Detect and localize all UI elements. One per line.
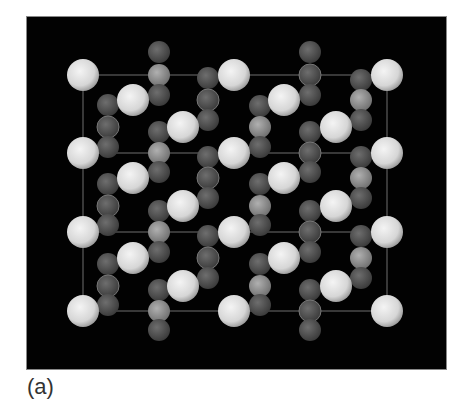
large-atom <box>167 111 199 143</box>
small-atom <box>299 64 321 86</box>
small-atom <box>350 167 372 189</box>
small-atom <box>249 253 271 275</box>
small-atom <box>299 241 321 263</box>
small-atom <box>249 195 271 217</box>
large-atom <box>268 162 300 194</box>
small-atom <box>148 64 170 86</box>
large-atom <box>371 216 403 248</box>
large-atom <box>67 137 99 169</box>
small-atom <box>249 275 271 297</box>
small-atom <box>350 267 372 289</box>
small-atom <box>299 84 321 106</box>
small-atom <box>249 136 271 158</box>
small-atom <box>148 142 170 164</box>
large-atom <box>218 137 250 169</box>
small-atom <box>97 294 119 316</box>
small-atom <box>350 89 372 111</box>
small-atom <box>299 200 321 222</box>
small-atom <box>249 116 271 138</box>
large-atom <box>268 242 300 274</box>
small-atom <box>299 142 321 164</box>
small-atom <box>197 109 219 131</box>
small-atom <box>350 225 372 247</box>
large-atom <box>320 111 352 143</box>
small-atom <box>197 225 219 247</box>
small-atom <box>148 200 170 222</box>
small-atom <box>148 241 170 263</box>
small-atom <box>97 214 119 236</box>
large-atom <box>320 190 352 222</box>
large-atom <box>218 216 250 248</box>
small-atom <box>197 247 219 269</box>
small-atom <box>148 319 170 341</box>
panel-label: (a) <box>27 374 54 400</box>
small-atom <box>197 267 219 289</box>
large-atom <box>117 84 149 116</box>
small-atom <box>350 146 372 168</box>
small-atom <box>350 247 372 269</box>
large-atom <box>371 137 403 169</box>
small-atom <box>148 121 170 143</box>
large-atom <box>371 295 403 327</box>
small-atom <box>350 109 372 131</box>
small-atom <box>97 195 119 217</box>
large-atom <box>67 216 99 248</box>
small-atom <box>197 146 219 168</box>
small-atom <box>249 173 271 195</box>
large-atom <box>167 270 199 302</box>
small-atom <box>197 167 219 189</box>
large-atom <box>320 270 352 302</box>
large-atom <box>117 242 149 274</box>
large-atom <box>371 59 403 91</box>
large-atom <box>117 162 149 194</box>
small-atom <box>249 214 271 236</box>
small-atom <box>148 161 170 183</box>
small-atom <box>249 294 271 316</box>
small-atom <box>97 253 119 275</box>
small-atom <box>299 221 321 243</box>
small-atom <box>197 67 219 89</box>
small-atom <box>249 95 271 117</box>
small-atom <box>97 94 119 116</box>
large-atom <box>218 295 250 327</box>
large-atom <box>67 59 99 91</box>
small-atom <box>299 121 321 143</box>
small-atom <box>148 300 170 322</box>
small-atom <box>350 69 372 91</box>
large-atom <box>167 190 199 222</box>
large-atom <box>218 59 250 91</box>
small-atom <box>97 116 119 138</box>
large-atom <box>67 295 99 327</box>
small-atom <box>148 84 170 106</box>
small-atom <box>148 221 170 243</box>
small-atom <box>97 275 119 297</box>
small-atom <box>299 319 321 341</box>
small-atom <box>299 279 321 301</box>
small-atom <box>97 136 119 158</box>
small-atom <box>97 173 119 195</box>
small-atom <box>350 187 372 209</box>
small-atom <box>148 279 170 301</box>
small-atom <box>299 300 321 322</box>
small-atom <box>148 41 170 63</box>
small-atom <box>197 187 219 209</box>
large-atom <box>268 84 300 116</box>
small-atom <box>299 161 321 183</box>
small-atom <box>197 89 219 111</box>
small-atom <box>299 41 321 63</box>
atom-layer <box>0 0 467 414</box>
